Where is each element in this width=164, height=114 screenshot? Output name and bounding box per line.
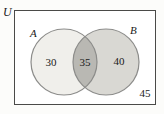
- intersection-value: 35: [80, 56, 92, 68]
- set-a-only-value: 30: [46, 56, 58, 68]
- venn-diagram-figure: U A B 30 35 40 45: [0, 0, 164, 114]
- outside-value: 45: [140, 87, 152, 99]
- set-b-only-value: 40: [114, 55, 126, 67]
- set-b-label: B: [130, 24, 137, 36]
- set-a-label: A: [29, 27, 37, 39]
- venn-diagram-canvas: U A B 30 35 40 45: [0, 0, 164, 114]
- universe-label: U: [3, 5, 13, 19]
